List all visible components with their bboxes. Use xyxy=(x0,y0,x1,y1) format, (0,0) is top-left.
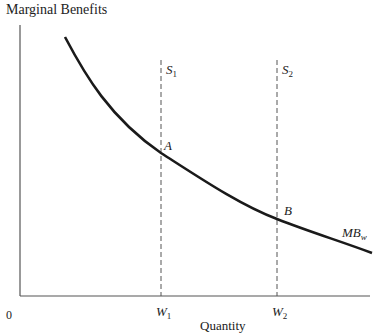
w2-tick-label: W2 xyxy=(272,304,287,321)
y-axis-label: Marginal Benefits xyxy=(6,2,107,18)
mb-curve-label: MBw xyxy=(342,225,367,242)
s1-label: S1 xyxy=(166,62,177,79)
s2-label: S2 xyxy=(282,62,293,79)
w1-tick-label: W1 xyxy=(156,304,171,321)
point-a-label: A xyxy=(164,138,172,154)
origin-label: 0 xyxy=(6,308,12,323)
point-b-label: B xyxy=(284,203,292,219)
x-axis-label: Quantity xyxy=(200,318,246,334)
chart-canvas xyxy=(0,0,378,334)
mb-curve xyxy=(65,37,372,253)
